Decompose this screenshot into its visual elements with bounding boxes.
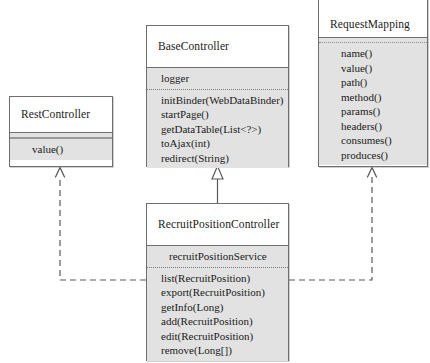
class-method[interactable]: startPage()	[147, 107, 288, 122]
class-body: logger initBinder(WebDataBinder) startPa…	[147, 68, 288, 168]
class-method[interactable]: getDataTable(List<?>)	[147, 122, 288, 137]
class-method[interactable]: getInfo(Long)	[147, 300, 288, 315]
class-method[interactable]: path()	[319, 75, 427, 90]
generalization-to-basecontroller	[212, 166, 223, 203]
class-method[interactable]: remove(Long[])	[147, 343, 288, 358]
methods-compartment: value()	[10, 139, 112, 160]
class-method[interactable]: consumes()	[319, 133, 427, 148]
methods-compartment: list(RecruitPosition) export(RecruitPosi…	[147, 268, 288, 361]
class-method[interactable]: method()	[319, 90, 427, 105]
class-method[interactable]: initBinder(WebDataBinder)	[147, 93, 288, 108]
open-arrowhead	[56, 168, 65, 178]
uml-class-recruitpositioncontroller[interactable]: RecruitPositionController recruitPositio…	[146, 203, 289, 361]
open-arrowhead	[368, 168, 377, 178]
class-name: RecruitPositionController	[158, 218, 279, 231]
class-header: RequestMapping	[319, 0, 427, 38]
class-method[interactable]: add(RecruitPosition)	[147, 314, 288, 329]
attributes-compartment: recruitPositionService	[147, 246, 288, 268]
class-method[interactable]: export(RecruitPosition)	[147, 285, 288, 300]
class-method[interactable]: produces()	[319, 148, 427, 163]
methods-compartment: initBinder(WebDataBinder) startPage() ge…	[147, 90, 288, 169]
class-method[interactable]: redirect(String)	[147, 151, 288, 166]
class-method[interactable]: headers()	[319, 119, 427, 134]
uml-class-restcontroller[interactable]: RestController value()	[9, 96, 113, 167]
class-attribute[interactable]: logger	[147, 71, 288, 86]
class-header: BaseController	[147, 26, 288, 68]
class-method[interactable]: list(RecruitPosition)	[147, 271, 288, 286]
dependency-to-restcontroller	[56, 168, 147, 281]
uml-class-diagram: RestController value() BaseController lo…	[0, 0, 430, 363]
class-name: RestController	[21, 108, 90, 121]
class-name: RequestMapping	[330, 18, 410, 31]
uml-class-basecontroller[interactable]: BaseController logger initBinder(WebData…	[146, 25, 289, 167]
attributes-compartment: logger	[147, 68, 288, 90]
class-body: value()	[10, 133, 112, 160]
class-name: BaseController	[158, 40, 229, 53]
class-header: RestController	[10, 97, 112, 133]
dependency-dashed-line	[60, 176, 146, 280]
class-method[interactable]: name()	[319, 46, 427, 61]
class-method[interactable]: toAjax(int)	[147, 136, 288, 151]
methods-compartment: name() value() path() method() params() …	[319, 43, 427, 165]
class-header: RecruitPositionController	[147, 204, 288, 246]
uml-class-requestmapping[interactable]: RequestMapping name() value() path() met…	[318, 0, 428, 167]
class-method[interactable]: value()	[319, 61, 427, 76]
class-body: recruitPositionService list(RecruitPosit…	[147, 246, 288, 361]
class-attribute[interactable]: recruitPositionService	[147, 249, 288, 264]
class-body: name() value() path() method() params() …	[319, 38, 427, 165]
dependency-dashed-line	[289, 176, 372, 280]
dependency-to-requestmapping	[289, 168, 377, 281]
class-method[interactable]: edit(RecruitPosition)	[147, 329, 288, 344]
class-method[interactable]: params()	[319, 104, 427, 119]
class-method[interactable]: value()	[10, 142, 112, 157]
